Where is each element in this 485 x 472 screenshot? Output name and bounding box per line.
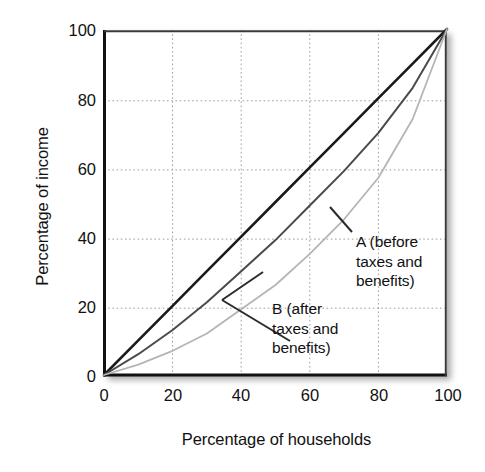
annotation-b-line2: taxes and	[272, 319, 338, 339]
annotation-a-line3: benefits)	[356, 271, 422, 291]
annotation-curve-b: B (after taxes and benefits)	[272, 299, 338, 358]
lorenz-curve-chart: Percentage of income 100 80 60 40 20 0 0…	[0, 0, 485, 472]
annotation-b-line3: benefits)	[272, 338, 338, 358]
annotation-curve-a: A (before taxes and benefits)	[356, 232, 422, 291]
annotation-a-line1: A (before	[356, 232, 422, 252]
annotation-b-line1: B (after	[272, 299, 338, 319]
annotation-a-line2: taxes and	[356, 252, 422, 272]
